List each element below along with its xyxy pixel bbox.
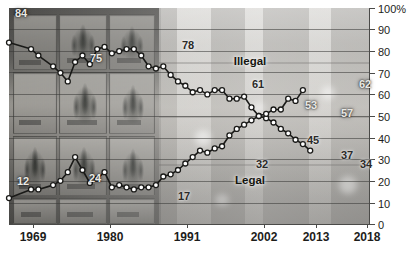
legal-value-1980: 24 (89, 173, 101, 184)
data-point-marker (117, 49, 122, 54)
data-point-marker (220, 88, 225, 93)
data-point-marker (65, 170, 70, 175)
legal-value-1969: 12 (17, 176, 29, 187)
data-point-marker (168, 172, 173, 177)
data-point-marker (212, 146, 217, 151)
data-point-marker (278, 126, 283, 131)
series-plot-svg (0, 0, 411, 256)
data-point-marker (183, 83, 188, 88)
data-point-marker (308, 148, 313, 153)
data-point-marker (175, 79, 180, 84)
data-point-marker (256, 114, 261, 119)
data-point-marker (102, 170, 107, 175)
data-point-marker (293, 98, 298, 103)
data-point-marker (249, 118, 254, 123)
legal-series-label: Legal (235, 175, 265, 187)
data-point-marker (131, 47, 136, 52)
data-point-marker (278, 107, 283, 112)
illegal-value-2012: 45 (307, 135, 319, 146)
data-point-marker (124, 47, 129, 52)
data-point-marker (198, 148, 203, 153)
data-point-marker (271, 120, 276, 125)
data-point-marker (234, 126, 239, 131)
data-point-marker (73, 60, 78, 65)
data-point-marker (220, 144, 225, 149)
data-point-marker (198, 88, 203, 93)
data-point-marker (124, 185, 129, 190)
data-point-marker (153, 66, 158, 71)
data-point-marker (227, 133, 232, 138)
data-point-marker (271, 107, 276, 112)
data-point-marker (51, 183, 56, 188)
data-point-marker (161, 174, 166, 179)
data-point-marker (117, 183, 122, 188)
data-point-marker (51, 64, 56, 69)
illegal-value-1990: 78 (182, 40, 194, 51)
data-point-marker (73, 155, 78, 160)
data-point-marker (109, 185, 114, 190)
data-point-marker (146, 64, 151, 69)
data-point-marker (29, 47, 34, 52)
data-point-marker (7, 40, 12, 45)
data-point-marker (36, 187, 41, 192)
illegal-value-2018: 34 (360, 159, 372, 170)
data-point-marker (264, 111, 269, 116)
legal-value-1989: 17 (178, 191, 190, 202)
data-point-marker (205, 150, 210, 155)
data-point-marker (109, 51, 114, 56)
data-point-marker (227, 96, 232, 101)
illegal-series-label: Illegal (234, 56, 267, 68)
illegal-value-2017: 37 (341, 150, 353, 161)
data-point-marker (293, 137, 298, 142)
line-chart-figure: 100% 90 80 70 60 50 40 30 20 10 0 1969 1… (0, 0, 411, 256)
data-point-marker (153, 183, 158, 188)
data-point-marker (190, 90, 195, 95)
data-point-marker (249, 105, 254, 110)
data-point-marker (146, 185, 151, 190)
data-point-marker (80, 168, 85, 173)
data-point-marker (286, 96, 291, 101)
data-point-marker (139, 185, 144, 190)
illegal-value-1978: 75 (90, 53, 102, 64)
data-point-marker (190, 155, 195, 160)
data-point-marker (29, 187, 34, 192)
data-point-marker (131, 187, 136, 192)
legal-value-2015: 57 (341, 108, 353, 119)
illegal-series-markers (7, 40, 313, 153)
data-point-marker (65, 79, 70, 84)
legal-value-2002: 32 (256, 159, 268, 170)
data-point-marker (175, 168, 180, 173)
data-point-marker (102, 44, 107, 49)
illegal-value-1969: 84 (15, 8, 27, 19)
data-point-marker (242, 122, 247, 127)
legal-value-2012: 53 (305, 100, 317, 111)
data-point-marker (139, 53, 144, 58)
data-point-marker (212, 88, 217, 93)
data-point-marker (58, 70, 63, 75)
data-point-marker (80, 53, 85, 58)
data-point-marker (286, 131, 291, 136)
data-point-marker (300, 88, 305, 93)
data-point-marker (242, 94, 247, 99)
data-point-marker (36, 53, 41, 58)
illegal-value-2001: 61 (252, 79, 264, 90)
data-point-marker (234, 96, 239, 101)
data-point-marker (161, 64, 166, 69)
legal-value-2018: 62 (359, 79, 371, 90)
data-point-marker (7, 196, 12, 201)
data-point-marker (168, 72, 173, 77)
data-point-marker (205, 92, 210, 97)
data-point-marker (58, 178, 63, 183)
data-point-marker (300, 142, 305, 147)
data-point-marker (183, 161, 188, 166)
